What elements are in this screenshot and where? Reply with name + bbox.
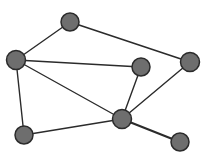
node-C xyxy=(132,58,150,76)
network-graph xyxy=(0,0,206,167)
graph-edges xyxy=(16,22,190,142)
node-A xyxy=(61,13,79,31)
edge-B-E xyxy=(16,60,122,119)
node-B xyxy=(7,51,26,70)
node-D xyxy=(181,53,200,72)
edge-B-F xyxy=(16,60,24,135)
node-F xyxy=(15,126,33,144)
edge-B-C xyxy=(16,60,141,67)
node-E xyxy=(113,110,132,129)
edge-F-E xyxy=(24,119,122,135)
edge-A-D xyxy=(70,22,190,62)
node-G xyxy=(171,133,189,151)
